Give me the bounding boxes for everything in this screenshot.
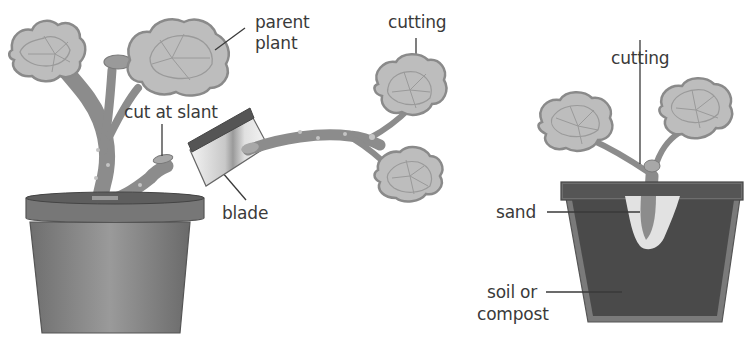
leaf (659, 78, 732, 138)
label-cut-at-slant: cut at slant (124, 102, 218, 122)
label-soil-line1: soil or (487, 282, 537, 302)
label-parent-plant-line2: plant (255, 33, 297, 53)
parent-plant (9, 19, 229, 333)
label-cutting-right: cutting (611, 48, 669, 68)
leaf (9, 21, 85, 81)
label-cutting-left: cutting (388, 12, 446, 32)
cutting-stem (240, 54, 446, 201)
label-blade: blade (222, 203, 268, 223)
leaf (375, 147, 443, 201)
leaf (375, 54, 447, 115)
plant-pot (26, 192, 204, 333)
label-soil-line2: compost (477, 304, 549, 324)
potted-cutting (539, 78, 743, 322)
leaf (128, 19, 229, 95)
label-sand: sand (496, 202, 536, 222)
label-parent-plant-line1: parent (255, 12, 310, 32)
